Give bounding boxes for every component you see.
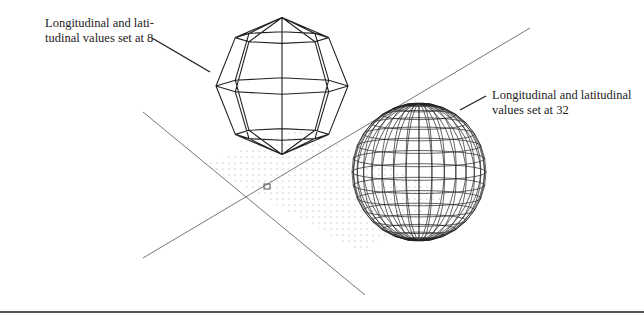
annotation-label-8-segments: Longitudinal and lati- tudinal values se…	[45, 16, 205, 46]
annotation-label-32-segments: Longitudinal and latitudinal values set …	[492, 88, 644, 118]
wireframe-drawing	[0, 0, 644, 317]
fine-wireframe-sphere	[352, 103, 486, 241]
bottom-rule-divider	[0, 311, 644, 313]
leader-line-right	[460, 96, 486, 110]
figure-canvas: Longitudinal and lati- tudinal values se…	[0, 0, 644, 317]
coarse-wireframe-sphere	[216, 18, 348, 155]
